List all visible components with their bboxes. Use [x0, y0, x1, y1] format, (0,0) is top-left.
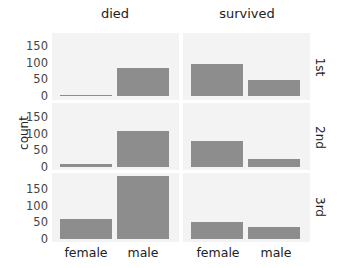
x-tick-male: male [115, 245, 171, 260]
bar-female [191, 64, 243, 96]
panel-2nd-survived [183, 103, 310, 170]
y-tick-label: 100 [20, 128, 48, 140]
y-tick-label: 100 [20, 200, 48, 212]
panel-2nd-died [52, 103, 179, 170]
bar-female [60, 219, 112, 239]
x-tick-male: male [248, 245, 304, 260]
y-tick-label: 150 [20, 40, 48, 52]
column-title-died: died [52, 6, 178, 21]
bar-male [248, 159, 300, 167]
bar-male [117, 68, 169, 96]
bar-female [60, 95, 112, 97]
row-title-2nd: 2nd [313, 126, 327, 146]
bar-male [117, 131, 169, 167]
bar-male [117, 176, 169, 239]
y-tick-label: 150 [20, 111, 48, 123]
y-tick-label: 0 [20, 90, 48, 102]
y-tick-label: 0 [20, 161, 48, 173]
x-tick-female: female [58, 245, 114, 260]
bar-female [191, 222, 243, 239]
row-title-3rd: 3rd [313, 197, 327, 217]
y-tick-label: 50 [20, 73, 48, 85]
x-tick-female: female [190, 245, 246, 260]
bar-male [248, 227, 300, 239]
y-tick-label: 150 [20, 183, 48, 195]
y-tick-label: 50 [20, 144, 48, 156]
bar-female [191, 141, 243, 167]
y-tick-label: 0 [20, 233, 48, 245]
y-tick-label: 100 [20, 57, 48, 69]
panel-1st-survived [183, 33, 310, 100]
bar-male [248, 80, 300, 96]
bar-female [60, 164, 112, 167]
y-tick-label: 50 [20, 216, 48, 228]
column-title-survived: survived [184, 6, 310, 21]
row-title-1st: 1st [313, 57, 327, 77]
panel-1st-died [52, 33, 179, 100]
panel-3rd-died [52, 173, 179, 242]
panel-3rd-survived [183, 173, 310, 242]
